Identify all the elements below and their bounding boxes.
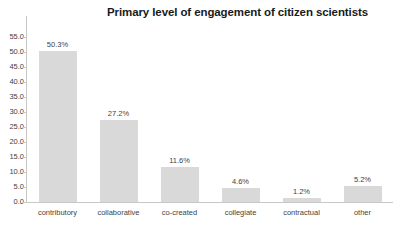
y-tick-mark: [23, 82, 26, 83]
y-tick-mark: [23, 97, 26, 98]
bar-value-label: 5.2%: [333, 175, 393, 184]
x-category-label: contractual: [268, 208, 336, 217]
y-tick-mark: [23, 67, 26, 68]
bar[interactable]: [39, 51, 77, 202]
bar[interactable]: [100, 120, 138, 202]
y-tick-mark: [23, 202, 26, 203]
x-category-label: collegiate: [207, 208, 275, 217]
y-tick-mark: [23, 187, 26, 188]
y-tick-mark: [23, 142, 26, 143]
bar-value-label: 4.6%: [211, 177, 271, 186]
y-tick-mark: [23, 37, 26, 38]
bar[interactable]: [344, 186, 382, 202]
y-tick-mark: [23, 157, 26, 158]
y-tick-label: 30.0: [0, 108, 24, 116]
y-tick-mark: [23, 112, 26, 113]
y-axis: 55.050.045.040.035.030.025.020.015.010.0…: [0, 0, 24, 236]
bar-value-label: 50.3%: [28, 40, 88, 49]
bar-value-label: 11.6%: [150, 156, 210, 165]
x-category-label: collaborative: [85, 208, 153, 217]
y-tick-label: 0.0: [0, 198, 24, 206]
y-tick-label: 40.0: [0, 78, 24, 86]
y-tick-label: 45.0: [0, 63, 24, 71]
bar-value-label: 1.2%: [272, 187, 332, 196]
bar[interactable]: [161, 167, 199, 202]
bar-value-label: 27.2%: [89, 109, 149, 118]
y-tick-label: 25.0: [0, 123, 24, 131]
y-tick-mark: [23, 52, 26, 53]
x-axis-line: [26, 202, 393, 203]
bar[interactable]: [222, 188, 260, 202]
y-tick-label: 5.0: [0, 183, 24, 191]
y-tick-label: 20.0: [0, 138, 24, 146]
x-category-label: co-created: [146, 208, 214, 217]
x-category-label: other: [329, 208, 397, 217]
bar[interactable]: [283, 198, 321, 202]
y-tick-label: 35.0: [0, 93, 24, 101]
y-tick-label: 10.0: [0, 168, 24, 176]
y-tick-mark: [23, 127, 26, 128]
y-tick-mark: [23, 172, 26, 173]
x-category-label: contributory: [24, 208, 92, 217]
y-tick-label: 55.0: [0, 33, 24, 41]
y-tick-label: 15.0: [0, 153, 24, 161]
bar-chart: Primary level of engagement of citizen s…: [0, 0, 397, 236]
y-tick-label: 50.0: [0, 48, 24, 56]
